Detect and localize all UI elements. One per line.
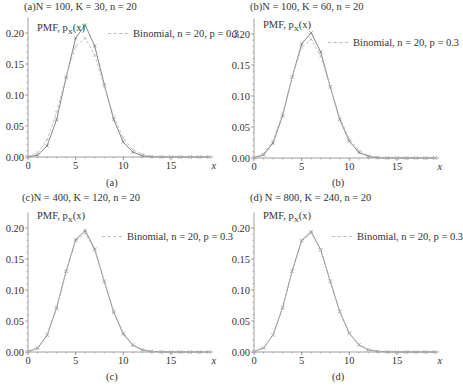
svg-text:0.10: 0.10 (232, 285, 250, 296)
svg-text:0.20: 0.20 (232, 29, 250, 40)
pmf-text: PMF, p (37, 22, 68, 33)
legend: Binomial, n = 20, p = 0.3 (328, 37, 459, 48)
svg-text:0: 0 (251, 161, 256, 172)
svg-text:x: x (436, 161, 442, 172)
svg-text:10: 10 (344, 355, 355, 366)
chart-b: 0.000.050.100.150.20051015x (226, 0, 452, 196)
svg-text:15: 15 (392, 161, 403, 172)
y-axis-label: PMF, pX(x) (37, 210, 85, 224)
svg-text:0: 0 (25, 160, 30, 171)
legend-swatch (328, 42, 348, 43)
pmf-text: PMF, p (263, 19, 294, 30)
panel-title: (a)N = 100, K = 30, n = 20 (24, 1, 137, 12)
pmf-arg: (x) (73, 22, 85, 33)
panel-caption: (b) (332, 177, 344, 188)
svg-text:0.00: 0.00 (232, 347, 250, 358)
panel-title: (c)N = 400, K = 120, n = 20 (22, 192, 140, 203)
svg-text:0.05: 0.05 (6, 316, 24, 327)
svg-text:5: 5 (73, 355, 78, 366)
svg-text:0.10: 0.10 (6, 285, 24, 296)
svg-text:10: 10 (344, 161, 355, 172)
svg-text:x: x (210, 160, 216, 171)
panel-c: 0.000.050.100.150.20051015x (c)N = 400, … (0, 196, 226, 392)
panel-b: 0.000.050.100.150.20051015x (b)N = 100, … (226, 0, 452, 196)
svg-text:0.15: 0.15 (6, 59, 24, 70)
svg-text:0.05: 0.05 (6, 121, 24, 132)
legend: Binomial, n = 20, p = 0.3 (332, 231, 463, 242)
chart-d: 0.000.050.100.150.20051015x (226, 196, 452, 392)
legend-swatch (108, 33, 128, 34)
pmf-arg: (x) (299, 210, 311, 221)
legend-swatch (332, 236, 352, 237)
svg-text:0.05: 0.05 (232, 122, 250, 133)
svg-text:0.00: 0.00 (232, 153, 250, 164)
legend-swatch (102, 236, 122, 237)
pmf-arg: (x) (299, 19, 311, 30)
svg-text:5: 5 (299, 161, 304, 172)
svg-text:5: 5 (73, 160, 78, 171)
panel-d: 0.000.050.100.150.20051015x (d) N = 800,… (226, 196, 452, 392)
y-axis-label: PMF, pX(x) (263, 19, 311, 33)
svg-text:15: 15 (392, 355, 403, 366)
svg-text:0.15: 0.15 (232, 60, 250, 71)
svg-text:0.15: 0.15 (6, 254, 24, 265)
svg-text:10: 10 (118, 160, 129, 171)
svg-text:10: 10 (118, 355, 129, 366)
panel-caption: (d) (332, 371, 344, 382)
panel-caption: (a) (106, 177, 118, 188)
svg-text:0.10: 0.10 (6, 90, 24, 101)
svg-text:15: 15 (166, 355, 177, 366)
panel-a: 0.000.050.100.150.20051015x (a)N = 100, … (0, 0, 226, 196)
svg-text:0: 0 (25, 355, 30, 366)
legend-label: Binomial, n = 20, p = 0.3 (127, 231, 233, 242)
svg-text:0.15: 0.15 (232, 254, 250, 265)
svg-text:0.05: 0.05 (232, 316, 250, 327)
panel-caption: (c) (106, 371, 118, 382)
chart-c: 0.000.050.100.150.20051015x (0, 196, 226, 392)
svg-text:0.10: 0.10 (232, 91, 250, 102)
panel-title: (b)N = 100, K = 60, n = 20 (250, 1, 363, 12)
svg-text:5: 5 (299, 355, 304, 366)
y-axis-label: PMF, pX(x) (37, 22, 85, 36)
svg-text:0.20: 0.20 (6, 223, 24, 234)
svg-text:x: x (210, 355, 216, 366)
svg-text:0.00: 0.00 (6, 152, 24, 163)
svg-text:0.20: 0.20 (6, 28, 24, 39)
svg-text:0.00: 0.00 (6, 347, 24, 358)
svg-text:x: x (436, 355, 442, 366)
svg-text:0: 0 (251, 355, 256, 366)
legend-label: Binomial, n = 20, p = 0.3 (357, 231, 463, 242)
svg-text:15: 15 (166, 160, 177, 171)
legend-label: Binomial, n = 20, p = 0.3 (353, 37, 459, 48)
legend-label: Binomial, n = 20, p = 0.3 (133, 28, 239, 39)
pmf-text: PMF, p (37, 210, 68, 221)
legend: Binomial, n = 20, p = 0.3 (108, 28, 239, 39)
pmf-arg: (x) (73, 210, 85, 221)
y-axis-label: PMF, pX(x) (263, 210, 311, 224)
svg-text:0.20: 0.20 (232, 223, 250, 234)
legend: Binomial, n = 20, p = 0.3 (102, 231, 233, 242)
pmf-text: PMF, p (263, 210, 294, 221)
panel-title: (d) N = 800, K = 240, n = 20 (250, 192, 371, 203)
